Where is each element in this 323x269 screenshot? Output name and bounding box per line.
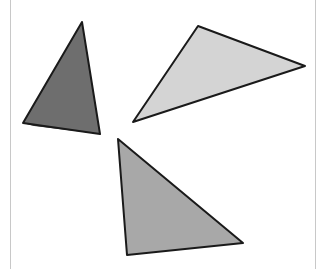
triangle-dark — [23, 22, 100, 134]
triangle-medium-face — [118, 139, 243, 255]
triangle-light-face — [133, 26, 305, 122]
triangle-dark-face — [23, 22, 100, 134]
triangle-medium — [118, 139, 243, 255]
triangles-diagram — [0, 0, 323, 269]
triangle-light — [133, 26, 305, 122]
